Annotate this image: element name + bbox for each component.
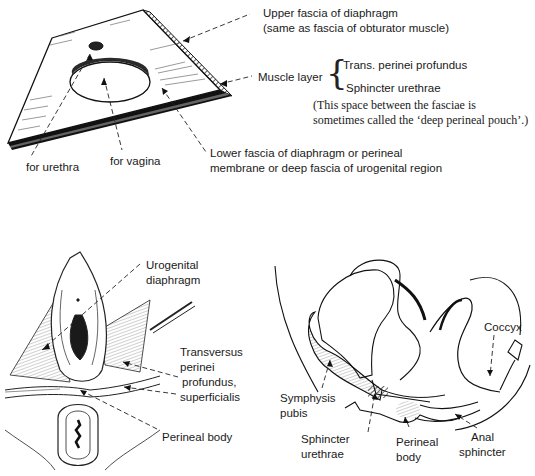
- note-deep-perineal-pouch-1: (This space between the fasciae is: [313, 98, 476, 113]
- label-urethrae: urethrae: [301, 447, 344, 461]
- label-body: body: [396, 450, 421, 464]
- label-anal-sphincter: sphincter: [459, 445, 506, 459]
- label-urogenital-diaphragm-2: diaphragm: [146, 273, 200, 287]
- label-superficialis: superficialis: [180, 390, 240, 404]
- label-sphincter-urethrae-top: Sphincter urethrae: [346, 81, 441, 95]
- label-upper-fascia-note: (same as fascia of obturator muscle): [263, 21, 449, 35]
- label-lower-fascia-2: membrane or deep fascia of urogenital re…: [210, 161, 442, 175]
- note-deep-perineal-pouch-2: sometimes called the ‘deep perineal pouc…: [313, 113, 528, 128]
- label-symphysis: Symphysis: [280, 391, 336, 405]
- label-trans-perinei-profundus: Trans. perinei profundus: [343, 58, 467, 72]
- label-muscle-layer: Muscle layer: [258, 70, 323, 84]
- label-coccyx: Coccyx: [484, 320, 522, 334]
- label-perineal-body-left: Perineal body: [162, 430, 232, 444]
- label-perineal: Perineal: [396, 435, 438, 449]
- label-urogenital-diaphragm: Urogenital: [146, 258, 198, 272]
- label-pubis: pubis: [280, 406, 308, 420]
- label-perinei: perinei: [180, 360, 215, 374]
- label-for-urethra: for urethra: [26, 160, 79, 174]
- label-profundus: profundus,: [182, 375, 236, 389]
- label-for-vagina: for vagina: [110, 154, 161, 168]
- diaphragm-block: [8, 10, 232, 150]
- label-anal: Anal: [471, 430, 494, 444]
- label-lower-fascia: Lower fascia of diaphragm or perineal: [210, 146, 402, 160]
- label-sphincter: Sphincter: [301, 432, 350, 446]
- label-transversus: Transversus: [180, 345, 243, 359]
- label-upper-fascia: Upper fascia of diaphragm: [263, 6, 398, 20]
